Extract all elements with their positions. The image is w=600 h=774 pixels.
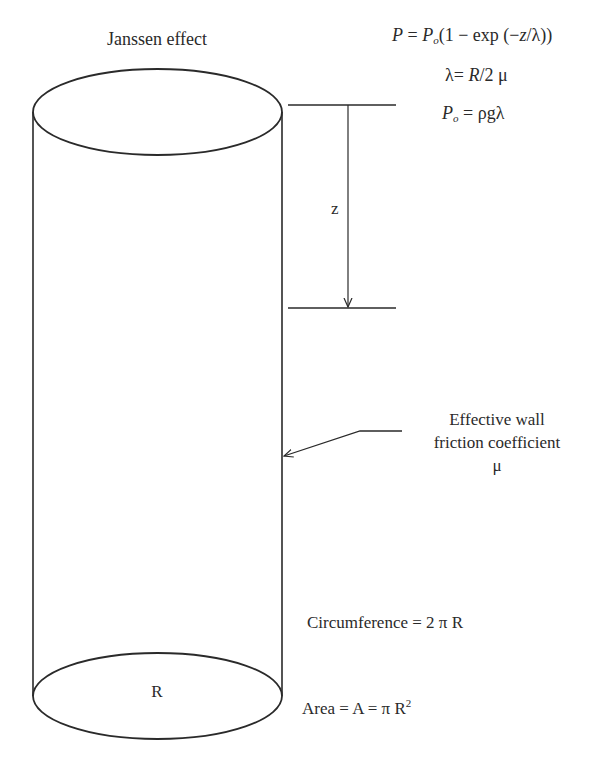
area-text: Area = A = π R	[302, 699, 406, 718]
diagram-title: Janssen effect	[107, 30, 207, 48]
cylinder-top-ellipse	[33, 69, 282, 155]
p0-def-symbol: P	[442, 103, 453, 123]
lambda-close: /λ))	[526, 25, 552, 45]
wall-friction-line-2: friction coefficient	[434, 431, 561, 454]
p0-def-rhs: = ρgλ	[459, 103, 505, 123]
circumference-label: Circumference = 2 π R	[307, 614, 463, 631]
radius-label: R	[151, 683, 162, 700]
equals-sign: =	[403, 25, 422, 45]
radius-symbol: R	[468, 65, 479, 85]
wall-friction-mu: μ	[434, 454, 561, 477]
lambda-lhs: λ=	[445, 65, 468, 85]
area-exponent: 2	[406, 697, 412, 709]
exp-open: (1 − exp (−	[439, 25, 520, 45]
p0-symbol: P	[422, 25, 433, 45]
p0-equation: Po = ρgλ	[442, 104, 504, 124]
lambda-rhs: /2 μ	[479, 65, 507, 85]
wall-friction-label: Effective wall friction coefficient μ	[434, 408, 561, 477]
area-label: Area = A = π R2	[302, 698, 411, 717]
lambda-equation: λ= R/2 μ	[445, 66, 508, 84]
wall-friction-line-1: Effective wall	[434, 408, 561, 431]
pressure-equation: P = Po(1 − exp (−z/λ))	[392, 26, 552, 46]
wall-friction-leader-line	[284, 431, 402, 456]
depth-label: z	[331, 200, 339, 217]
janssen-diagram-canvas	[0, 0, 600, 774]
pressure-symbol: P	[392, 25, 403, 45]
